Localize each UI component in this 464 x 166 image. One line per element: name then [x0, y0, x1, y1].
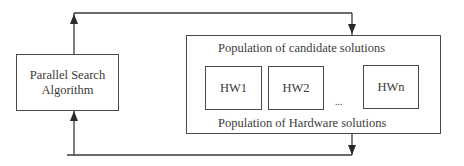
hw2-box: HW2: [268, 66, 324, 110]
candidate-solutions-label: Population of candidate solutions: [218, 41, 385, 56]
hw1-label: HW1: [220, 81, 247, 96]
arrow-down-icon: [348, 24, 356, 34]
arrow-down-icon: [348, 145, 356, 155]
hwn-box: HWn: [363, 65, 419, 109]
arrow-up-icon: [70, 14, 78, 24]
hw2-label: HW2: [282, 81, 309, 96]
hardware-solutions-label: Population of Hardware solutions: [218, 116, 386, 131]
algorithm-label-line1: Parallel Search: [30, 68, 105, 83]
arrow-up-icon: [70, 111, 78, 121]
ellipsis: ...: [335, 96, 343, 107]
hwn-label: HWn: [377, 80, 404, 95]
hw1-box: HW1: [205, 66, 262, 110]
parallel-search-algorithm-box: Parallel Search Algorithm: [16, 54, 119, 111]
algorithm-label-line2: Algorithm: [41, 83, 93, 98]
